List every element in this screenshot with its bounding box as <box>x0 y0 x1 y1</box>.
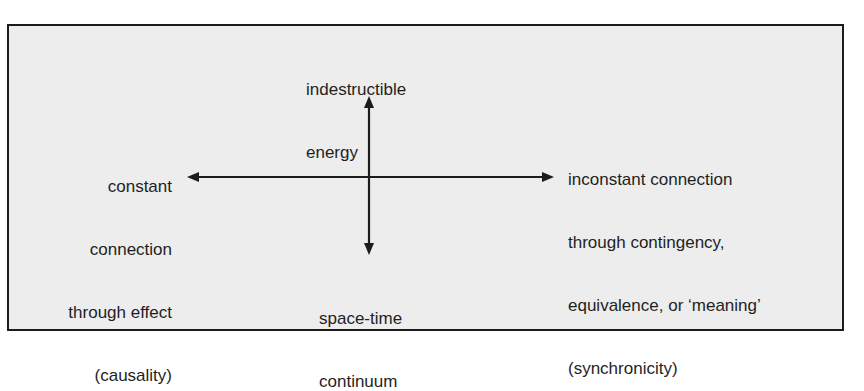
bottom-label-line: continuum <box>319 371 402 391</box>
right-label-line: (synchronicity) <box>568 358 761 379</box>
right-label-line: equivalence, or ‘meaning’ <box>568 295 761 316</box>
bottom-label-line: space-time <box>319 308 402 329</box>
top-label: indestructible energy <box>306 37 406 184</box>
left-label-line: through effect <box>68 302 172 323</box>
left-label-line: connection <box>68 239 172 260</box>
arrowhead-right-icon <box>542 172 554 182</box>
top-label-line: indestructible <box>306 79 406 100</box>
right-label-line: through contingency, <box>568 232 761 253</box>
arrowhead-down-icon <box>364 243 374 255</box>
bottom-label: space-time continuum <box>319 266 402 391</box>
top-label-line: energy <box>306 142 406 163</box>
left-label-line: constant <box>68 176 172 197</box>
arrowhead-left-icon <box>187 172 199 182</box>
right-label-line: inconstant connection <box>568 169 761 190</box>
left-label: constant connection through effect (caus… <box>68 134 172 391</box>
left-label-line: (causality) <box>68 365 172 386</box>
right-label: inconstant connection through contingenc… <box>568 127 761 391</box>
